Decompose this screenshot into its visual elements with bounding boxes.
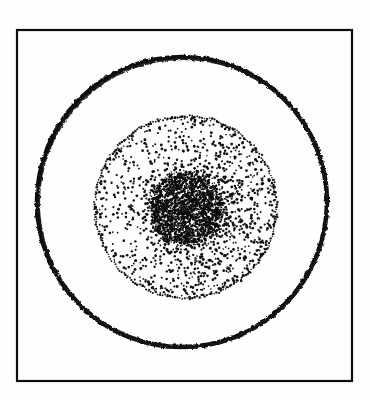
figure-canvas [0, 0, 371, 400]
figure-root: Concentric zone stipple diagram Square f… [0, 0, 371, 400]
